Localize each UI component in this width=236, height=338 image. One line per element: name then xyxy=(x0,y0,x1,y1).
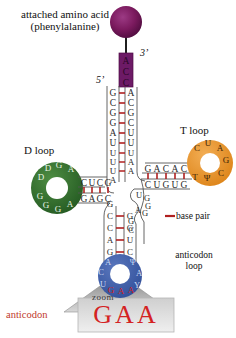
svg-text:G: G xyxy=(105,178,112,188)
svg-text:U: U xyxy=(154,180,161,190)
svg-text:A: A xyxy=(172,164,179,174)
anticodon-loop-label: anticodon loop xyxy=(156,250,232,271)
svg-text:G: G xyxy=(142,208,148,218)
anticodon-loop-label-line2: loop xyxy=(156,261,232,272)
five-prime-label: 5’ xyxy=(96,74,104,85)
svg-text:A: A xyxy=(68,164,75,174)
trna-diagram: A C C G C G G A U A C G C U U xyxy=(0,0,236,338)
svg-text:A: A xyxy=(128,285,135,295)
svg-text:C: C xyxy=(181,164,187,174)
svg-text:G: G xyxy=(163,180,170,190)
t-loop: C U A G C Ψ T xyxy=(187,138,233,186)
acc5-3: G xyxy=(110,118,117,128)
svg-text:Ψ: Ψ xyxy=(204,173,211,183)
acceptor-base-pairs xyxy=(119,93,125,143)
anticodon-base-2: A xyxy=(137,300,159,329)
svg-text:G: G xyxy=(43,200,50,210)
svg-text:G: G xyxy=(127,223,134,233)
svg-text:G: G xyxy=(55,204,62,214)
anticodon-loop-label-line1: anticodon xyxy=(156,250,232,261)
svg-text:C: C xyxy=(98,267,104,277)
svg-text:C: C xyxy=(107,223,113,233)
svg-text:A: A xyxy=(89,194,96,204)
amino-acid-label: attached amino acid (phenylalanine) xyxy=(4,8,126,33)
svg-text:G: G xyxy=(145,164,152,174)
svg-text:A: A xyxy=(217,143,224,153)
acc3-2: G xyxy=(128,108,135,118)
cap-base-0: A xyxy=(123,56,130,66)
svg-text:G: G xyxy=(127,211,134,221)
d-loop-label: D loop xyxy=(24,144,54,156)
svg-text:G: G xyxy=(223,155,230,165)
base-pair-legend-label: base pair xyxy=(176,211,210,222)
svg-text:T: T xyxy=(192,172,198,182)
svg-text:D: D xyxy=(38,172,45,182)
anticodon-zoom-bases: GAA xyxy=(84,300,168,330)
svg-text:D: D xyxy=(45,163,52,173)
acc5-0: G xyxy=(110,88,117,98)
svg-text:G: G xyxy=(56,160,63,170)
svg-text:G: G xyxy=(107,199,114,209)
acc3-0: A xyxy=(128,88,135,98)
svg-text:C: C xyxy=(97,178,103,188)
svg-text:U: U xyxy=(205,138,212,148)
svg-text:C: C xyxy=(145,180,151,190)
anticodon-label: anticodon xyxy=(6,309,47,321)
svg-text:A: A xyxy=(118,286,125,296)
amino-acid-label-line2: (phenylalanine) xyxy=(4,20,126,32)
trna-structure-svg: A C C G C G G A U A C G C U U xyxy=(0,0,236,338)
svg-text:U: U xyxy=(127,235,134,245)
d-arm-connector: U U U A U A A xyxy=(107,148,145,193)
anticodon-stem: G C C A G G G U C xyxy=(104,199,136,262)
svg-text:U: U xyxy=(100,279,106,289)
acc5-4: A xyxy=(110,128,117,138)
svg-text:C: C xyxy=(194,143,200,153)
acc3-4: U xyxy=(128,128,135,138)
svg-text:A: A xyxy=(136,268,143,278)
svg-text:A: A xyxy=(105,257,112,267)
svg-text:G: G xyxy=(97,194,104,204)
anticodon-base-0: G xyxy=(93,300,115,329)
three-prime-label: 3’ xyxy=(140,47,148,58)
svg-text:C: C xyxy=(81,178,87,188)
svg-text:U: U xyxy=(136,190,142,200)
acc3-3: C xyxy=(128,118,134,128)
acc5-2: G xyxy=(110,108,117,118)
svg-text:C: C xyxy=(218,168,224,178)
svg-text:A: A xyxy=(128,166,135,176)
svg-text:A: A xyxy=(107,235,114,245)
svg-text:C: C xyxy=(163,164,169,174)
svg-text:A: A xyxy=(67,199,74,209)
svg-text:Ψ: Ψ xyxy=(130,257,137,267)
svg-text:G: G xyxy=(181,180,188,190)
acc3-5: U xyxy=(128,138,135,148)
svg-text:A: A xyxy=(154,164,161,174)
amino-acid-label-line1: attached amino acid xyxy=(4,8,126,20)
anticodon-base-1: A xyxy=(115,300,137,329)
svg-text:Y: Y xyxy=(134,280,140,290)
svg-text:U: U xyxy=(172,180,179,190)
d-loop: D D G A G G G A xyxy=(31,160,83,214)
cap-base-2: C xyxy=(123,78,129,88)
acc5-1: C xyxy=(110,98,116,108)
acc5-5: U xyxy=(110,138,117,148)
cap-base-1: C xyxy=(123,67,129,77)
acceptor-cap: A C C xyxy=(119,53,133,88)
svg-text:G: G xyxy=(81,194,88,204)
svg-text:U: U xyxy=(89,178,96,188)
acc3-1: C xyxy=(128,98,134,108)
svg-text:C: C xyxy=(107,211,113,221)
svg-text:A: A xyxy=(135,205,142,215)
t-loop-label: T loop xyxy=(180,124,209,136)
acceptor-stem: G C G G A U A C G C U U xyxy=(107,86,137,148)
